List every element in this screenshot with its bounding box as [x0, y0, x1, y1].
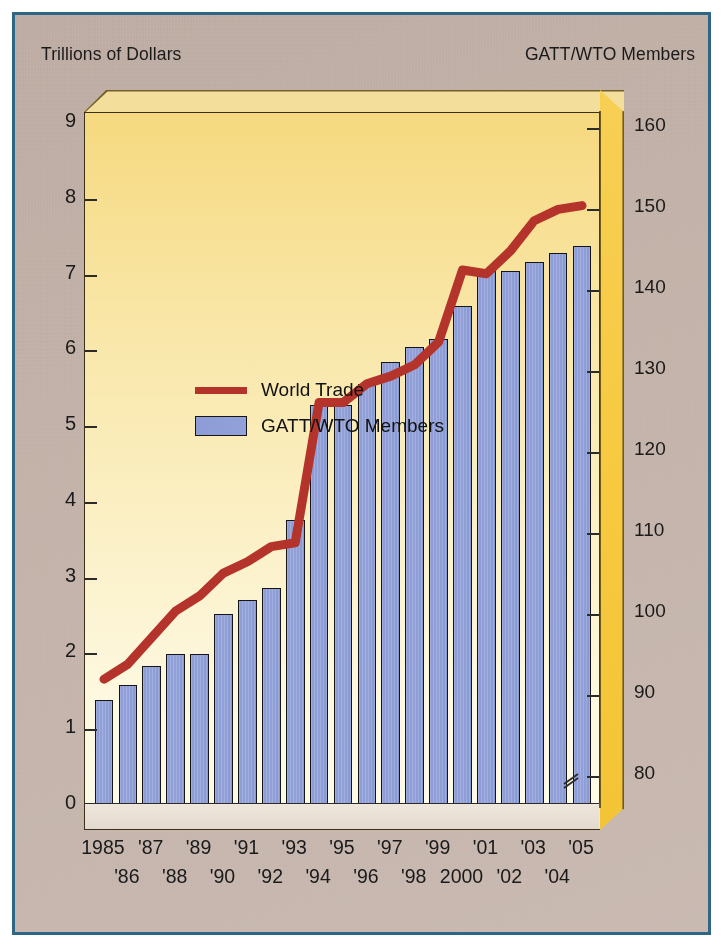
- left-tick: [85, 275, 97, 277]
- x-tick-label: '96: [353, 865, 378, 888]
- chart-legend: World Trade GATT/WTO Members: [195, 375, 444, 447]
- x-tick-label: '89: [186, 836, 211, 859]
- x-tick-label: '94: [305, 865, 330, 888]
- left-tick: [85, 502, 97, 504]
- right-tick-label: 90: [634, 681, 686, 703]
- left-tick: [85, 199, 97, 201]
- x-tick-label: '87: [138, 836, 163, 859]
- x-tick-label: '92: [258, 865, 283, 888]
- legend-item-world-trade: World Trade: [195, 375, 444, 405]
- x-tick-label: '02: [497, 865, 522, 888]
- left-tick-label: 3: [36, 564, 76, 587]
- left-tick-label: 7: [36, 261, 76, 284]
- right-tick-label: 140: [634, 276, 686, 298]
- right-tick: [587, 695, 599, 697]
- x-tick-label: '95: [329, 836, 354, 859]
- plot-wall: World Trade GATT/WTO Members: [84, 112, 600, 830]
- bar-swatch-icon: [195, 416, 247, 436]
- legend-label-members: GATT/WTO Members: [261, 415, 444, 437]
- left-tick-label: 2: [36, 639, 76, 662]
- right-tick: [587, 614, 599, 616]
- plot-area-3d: World Trade GATT/WTO Members: [84, 90, 624, 830]
- right-tick-label: 130: [634, 357, 686, 379]
- right-tick: [587, 209, 599, 211]
- x-tick-label: '86: [114, 865, 139, 888]
- x-tick-label: '04: [544, 865, 569, 888]
- left-tick-label: 9: [36, 109, 76, 132]
- right-tick-label: 100: [634, 600, 686, 622]
- plot-top-face: [84, 90, 624, 112]
- right-tick: [587, 290, 599, 292]
- left-tick: [85, 729, 97, 731]
- left-tick-label: 0: [36, 791, 76, 814]
- left-tick: [85, 350, 97, 352]
- x-tick-label: '90: [210, 865, 235, 888]
- left-tick: [85, 426, 97, 428]
- right-tick-label: 160: [634, 114, 686, 136]
- x-tick-label: '01: [473, 836, 498, 859]
- x-tick-label: '05: [568, 836, 593, 859]
- legend-item-members: GATT/WTO Members: [195, 411, 444, 441]
- x-tick-label: '88: [162, 865, 187, 888]
- left-axis-title: Trillions of Dollars: [41, 44, 181, 65]
- x-tick-label: '98: [401, 865, 426, 888]
- right-tick: [587, 533, 599, 535]
- left-tick-label: 5: [36, 412, 76, 435]
- axis-break-icon: [561, 769, 583, 791]
- x-tick-label: 2000: [440, 865, 483, 888]
- x-axis-labels: 1985'87'89'91'93'95'97'99'01'03'05'86'88…: [84, 836, 624, 926]
- left-tick: [85, 653, 97, 655]
- right-tick: [587, 776, 599, 778]
- x-tick-label: '97: [377, 836, 402, 859]
- right-tick-label: 150: [634, 195, 686, 217]
- plot-right-inner-edge: [599, 111, 601, 808]
- right-tick: [587, 452, 599, 454]
- x-tick-label: '03: [521, 836, 546, 859]
- right-tick-label: 80: [634, 762, 686, 784]
- left-tick-label: 4: [36, 488, 76, 511]
- plot-right-face: [600, 90, 624, 830]
- left-tick-label: 6: [36, 336, 76, 359]
- left-tick-label: 1: [36, 715, 76, 738]
- left-tick: [85, 578, 97, 580]
- x-tick-label: '99: [425, 836, 450, 859]
- world-trade-line: [85, 135, 601, 853]
- chart-page: Trillions of Dollars GATT/WTO Members Wo…: [0, 0, 723, 947]
- legend-label-world-trade: World Trade: [261, 379, 364, 401]
- right-tick-label: 110: [634, 519, 686, 541]
- right-tick: [587, 371, 599, 373]
- line-swatch-icon: [195, 387, 247, 394]
- x-tick-label: 1985: [81, 836, 124, 859]
- x-tick-label: '93: [281, 836, 306, 859]
- right-axis-title: GATT/WTO Members: [525, 44, 695, 65]
- right-tick-label: 120: [634, 438, 686, 460]
- plot-floor: [85, 803, 601, 829]
- left-tick-label: 8: [36, 185, 76, 208]
- right-tick: [587, 128, 599, 130]
- x-tick-label: '91: [234, 836, 259, 859]
